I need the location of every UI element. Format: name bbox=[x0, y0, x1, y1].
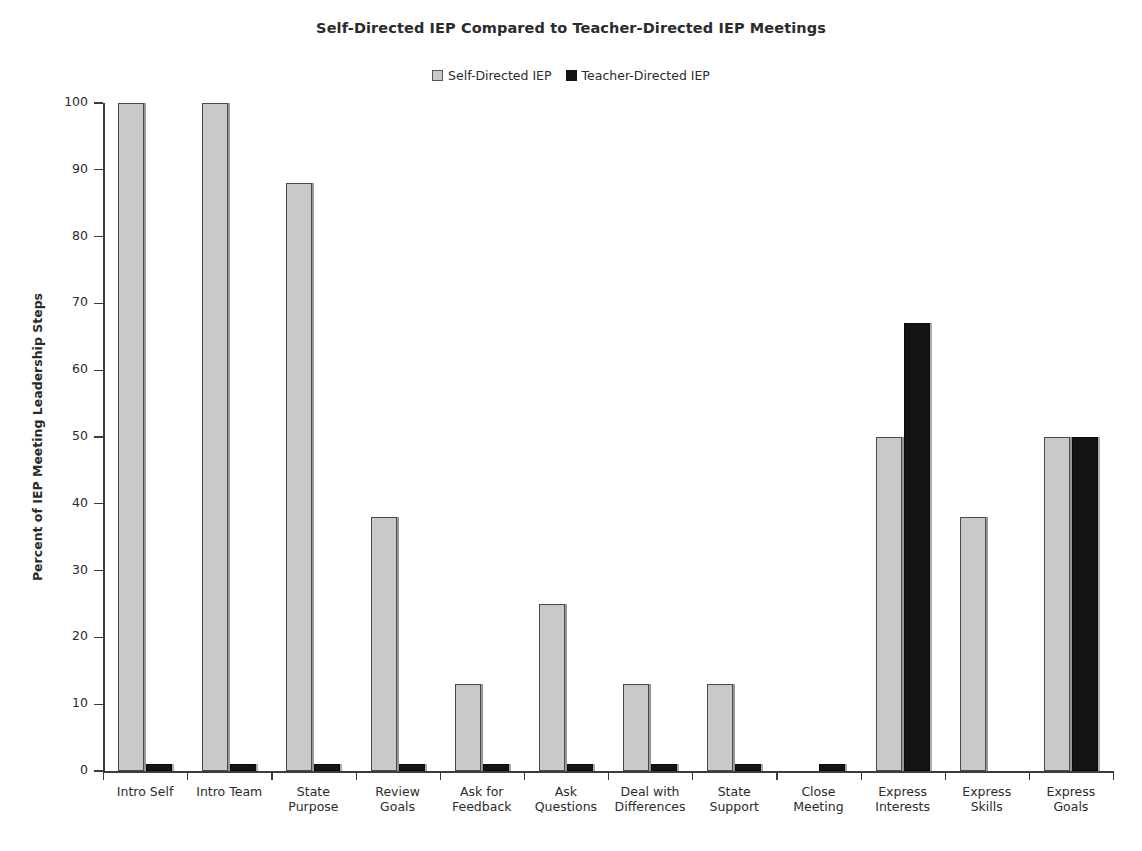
y-tick bbox=[94, 637, 103, 638]
legend-item-self-directed: Self-Directed IEP bbox=[432, 68, 551, 83]
y-tick-label: 60 bbox=[48, 361, 88, 376]
y-tick-label: 80 bbox=[48, 228, 88, 243]
y-tick bbox=[94, 503, 103, 504]
legend-item-teacher-directed: Teacher-Directed IEP bbox=[566, 68, 710, 83]
y-tick-label: 30 bbox=[48, 562, 88, 577]
bar-self-directed-iep-ask-for-feedback bbox=[455, 684, 481, 771]
y-tick-label: 0 bbox=[48, 762, 88, 777]
legend-label-self-directed: Self-Directed IEP bbox=[448, 68, 551, 83]
y-tick bbox=[94, 436, 103, 437]
x-axis-category-label: ExpressInterests bbox=[861, 784, 945, 814]
x-tick bbox=[440, 772, 441, 780]
bar-self-directed-iep-state-support bbox=[707, 684, 733, 771]
bar-self-directed-iep-ask-questions bbox=[539, 604, 565, 771]
x-tick bbox=[187, 772, 188, 780]
x-tick bbox=[271, 772, 272, 780]
x-axis-category-label: CloseMeeting bbox=[776, 784, 860, 814]
x-axis-category-label: AskQuestions bbox=[524, 784, 608, 814]
bar-teacher-directed-iep-ask-for-feedback bbox=[483, 764, 509, 771]
y-tick bbox=[94, 770, 103, 771]
x-axis-category-label: StateSupport bbox=[692, 784, 776, 814]
bar-teacher-directed-iep-deal-with-differences bbox=[651, 764, 677, 771]
x-tick bbox=[356, 772, 357, 780]
legend-swatch-self-directed bbox=[432, 70, 443, 81]
x-axis-category-label: Intro Team bbox=[187, 784, 271, 799]
x-axis-category-label: ExpressSkills bbox=[945, 784, 1029, 814]
y-tick-label: 40 bbox=[48, 495, 88, 510]
y-tick-label: 10 bbox=[48, 695, 88, 710]
bar-teacher-directed-iep-intro-team bbox=[230, 764, 256, 771]
y-tick bbox=[94, 236, 103, 237]
bar-self-directed-iep-deal-with-differences bbox=[623, 684, 649, 771]
x-axis-category-label: ExpressGoals bbox=[1029, 784, 1113, 814]
legend-label-teacher-directed: Teacher-Directed IEP bbox=[582, 68, 710, 83]
x-tick bbox=[861, 772, 862, 780]
y-tick bbox=[94, 370, 103, 371]
bar-teacher-directed-iep-state-purpose bbox=[314, 764, 340, 771]
bar-teacher-directed-iep-express-interests bbox=[904, 323, 930, 771]
x-axis-category-label: StatePurpose bbox=[271, 784, 355, 814]
chart-legend: Self-Directed IEP Teacher-Directed IEP bbox=[0, 68, 1142, 83]
y-tick bbox=[94, 169, 103, 170]
bar-teacher-directed-iep-ask-questions bbox=[567, 764, 593, 771]
x-tick bbox=[945, 772, 946, 780]
x-axis-category-label: ReviewGoals bbox=[356, 784, 440, 814]
y-tick-label: 50 bbox=[48, 428, 88, 443]
bar-teacher-directed-iep-state-support bbox=[735, 764, 761, 771]
bar-chart-figure: Self-Directed IEP Compared to Teacher-Di… bbox=[0, 0, 1142, 851]
y-tick-label: 90 bbox=[48, 161, 88, 176]
bar-teacher-directed-iep-review-goals bbox=[399, 764, 425, 771]
bar-self-directed-iep-express-skills bbox=[960, 517, 986, 771]
y-tick bbox=[94, 570, 103, 571]
bar-self-directed-iep-express-interests bbox=[876, 437, 902, 771]
y-tick-label: 20 bbox=[48, 628, 88, 643]
x-axis-category-label: Intro Self bbox=[103, 784, 187, 799]
bar-self-directed-iep-intro-self bbox=[118, 103, 144, 771]
x-tick bbox=[776, 772, 777, 780]
legend-swatch-teacher-directed bbox=[566, 70, 577, 81]
y-tick bbox=[94, 704, 103, 705]
y-tick bbox=[94, 303, 103, 304]
x-tick bbox=[524, 772, 525, 780]
x-tick bbox=[692, 772, 693, 780]
chart-title: Self-Directed IEP Compared to Teacher-Di… bbox=[0, 20, 1142, 36]
x-axis-category-label: Deal withDifferences bbox=[608, 784, 692, 814]
bar-teacher-directed-iep-close-meeting bbox=[819, 764, 845, 771]
bar-teacher-directed-iep-intro-self bbox=[146, 764, 172, 771]
bar-self-directed-iep-state-purpose bbox=[286, 183, 312, 771]
x-tick bbox=[1113, 772, 1114, 780]
bar-self-directed-iep-intro-team bbox=[202, 103, 228, 771]
y-tick-label: 70 bbox=[48, 294, 88, 309]
y-axis-title: Percent of IEP Meeting Leadership Steps bbox=[30, 103, 45, 771]
x-tick bbox=[1029, 772, 1030, 780]
plot-area bbox=[103, 103, 1113, 771]
bar-teacher-directed-iep-express-goals bbox=[1072, 437, 1098, 771]
bar-self-directed-iep-review-goals bbox=[371, 517, 397, 771]
bar-self-directed-iep-express-goals bbox=[1044, 437, 1070, 771]
y-tick-label: 100 bbox=[48, 94, 88, 109]
x-axis-category-label: Ask forFeedback bbox=[440, 784, 524, 814]
x-tick bbox=[608, 772, 609, 780]
y-tick bbox=[94, 102, 103, 103]
x-tick bbox=[103, 772, 104, 780]
